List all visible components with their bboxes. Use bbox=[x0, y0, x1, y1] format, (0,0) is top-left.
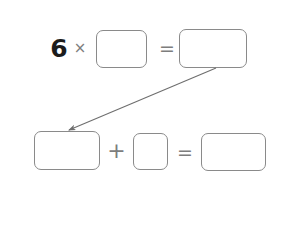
addend-one-answer-box-value bbox=[35, 132, 101, 171]
product-answer-box-value bbox=[180, 30, 248, 69]
top-equals-sign: = bbox=[157, 38, 177, 58]
sum-answer-box-value bbox=[202, 134, 267, 172]
addition-sign: + bbox=[107, 141, 126, 161]
product-answer-box[interactable] bbox=[179, 29, 247, 68]
addend-one-answer-box[interactable] bbox=[34, 131, 100, 170]
addend-two-answer-box-value bbox=[134, 134, 169, 171]
multiplicand-six: 6 bbox=[50, 34, 68, 62]
addend-two-answer-box[interactable] bbox=[133, 133, 168, 170]
sum-answer-box[interactable] bbox=[201, 133, 266, 171]
factor-answer-box-value bbox=[97, 31, 148, 69]
factor-answer-box[interactable] bbox=[96, 30, 147, 68]
math-worksheet-canvas: 6 × = + = bbox=[0, 0, 285, 231]
bottom-equals-sign: = bbox=[175, 142, 195, 162]
multiplication-sign: × bbox=[72, 39, 88, 57]
